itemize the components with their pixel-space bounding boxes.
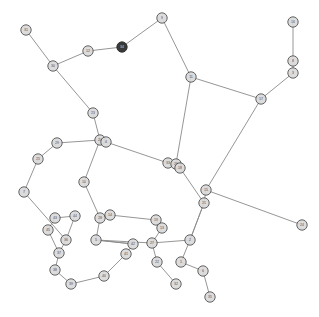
graph-node-circle[interactable] [19,187,29,197]
graph-edge [152,240,190,243]
graph-node-circle[interactable] [205,292,215,302]
graph-edge [96,240,152,243]
graph-node-circle[interactable] [198,266,208,276]
graph-edge [84,140,100,182]
graph-node[interactable]: 34 [117,42,127,52]
graph-node[interactable]: 45 [43,225,53,235]
graph-node-circle[interactable] [185,235,195,245]
graph-node[interactable]: 10 [79,177,89,187]
graph-node-circle[interactable] [256,94,266,104]
graph-node[interactable]: 5 [91,235,101,245]
graph-node-circle[interactable] [157,13,167,23]
graph-node[interactable]: 22 [152,257,162,267]
graph-node-highlighted[interactable] [117,42,127,52]
graph-node-circle[interactable] [147,238,157,248]
graph-node[interactable]: 44 [70,211,80,221]
graph-node-circle[interactable] [186,72,196,82]
graph-edge [26,30,53,66]
graph-node[interactable]: 30 [48,61,58,71]
graph-node[interactable]: 23 [88,108,98,118]
graph-node-circle[interactable] [43,225,53,235]
graph-node-circle[interactable] [288,68,298,78]
graph-node[interactable]: 15 [201,185,211,195]
graph-node[interactable]: 37 [54,248,64,258]
graph-node-circle[interactable] [70,211,80,221]
graph-node-circle[interactable] [52,138,62,148]
graph-node[interactable]: 9 [157,13,167,23]
graph-node-circle[interactable] [128,239,138,249]
graph-node[interactable]: 3 [288,68,298,78]
graph-node[interactable]: 1 [176,257,186,267]
graph-node[interactable]: 27 [147,238,157,248]
network-graph-figure: 3130123491117168323204292571033261821152… [0,0,319,317]
graph-edge [162,18,191,77]
graph-node-circle[interactable] [88,108,98,118]
graph-node[interactable]: 24 [297,220,307,230]
graph-edge [190,203,204,240]
graph-node-circle[interactable] [50,265,60,275]
graph-node[interactable]: 12 [83,46,93,56]
graph-edge [110,215,156,220]
graph-node[interactable]: 32 [171,279,181,289]
graph-node-circle[interactable] [288,17,298,27]
edge-layer [24,18,302,297]
graph-node-circle[interactable] [121,249,131,259]
graph-node[interactable]: 40 [99,271,109,281]
graph-node-circle[interactable] [105,210,115,220]
graph-node-circle[interactable] [83,46,93,56]
graph-node-circle[interactable] [175,163,185,173]
graph-edge [206,99,261,190]
graph-node-circle[interactable] [297,220,307,230]
graph-node-circle[interactable] [199,198,209,208]
graph-edge [106,142,168,163]
graph-node-circle[interactable] [91,235,101,245]
graph-node[interactable]: 8 [288,56,298,66]
graph-edge [57,140,100,143]
graph-node[interactable]: 38 [50,265,60,275]
graph-edge [180,168,204,203]
graph-edge [261,73,293,99]
graph-edge [176,77,191,164]
graph-node[interactable]: 7 [19,187,29,197]
graph-node[interactable]: 39 [66,279,76,289]
graph-node-circle[interactable] [61,235,71,245]
graph-node[interactable]: 28 [95,213,105,223]
graph-node-circle[interactable] [101,137,111,147]
graph-node[interactable]: 36 [61,235,71,245]
graph-node[interactable]: 18 [175,163,185,173]
graph-node-circle[interactable] [50,213,60,223]
graph-edge [206,190,302,225]
graph-node[interactable]: 29 [52,138,62,148]
graph-node-circle[interactable] [176,257,186,267]
graph-node[interactable]: 4 [101,137,111,147]
graph-edge [122,18,162,47]
graph-node[interactable]: 41 [121,249,131,259]
graph-node[interactable]: 25 [33,154,43,164]
graph-node[interactable]: 31 [21,25,31,35]
graph-node[interactable]: 14 [105,210,115,220]
graph-node-circle[interactable] [66,279,76,289]
graph-node-circle[interactable] [171,279,181,289]
graph-node[interactable]: 11 [186,72,196,82]
graph-node-circle[interactable] [33,154,43,164]
graph-node[interactable]: 13 [157,223,167,233]
graph-node-circle[interactable] [152,257,162,267]
graph-node[interactable]: 21 [199,198,209,208]
graph-node[interactable]: 2 [185,235,195,245]
graph-node[interactable]: 42 [128,239,138,249]
graph-node[interactable]: 16 [288,17,298,27]
graph-node-circle[interactable] [201,185,211,195]
graph-node-circle[interactable] [99,271,109,281]
graph-node-circle[interactable] [288,56,298,66]
graph-node[interactable]: 17 [256,94,266,104]
graph-node[interactable]: 43 [50,213,60,223]
graph-edge [84,182,100,218]
graph-node-circle[interactable] [21,25,31,35]
graph-node[interactable]: 6 [198,266,208,276]
graph-node-circle[interactable] [95,213,105,223]
graph-node-circle[interactable] [79,177,89,187]
graph-node-circle[interactable] [157,223,167,233]
graph-node[interactable]: 35 [205,292,215,302]
graph-node-circle[interactable] [54,248,64,258]
graph-node-circle[interactable] [48,61,58,71]
